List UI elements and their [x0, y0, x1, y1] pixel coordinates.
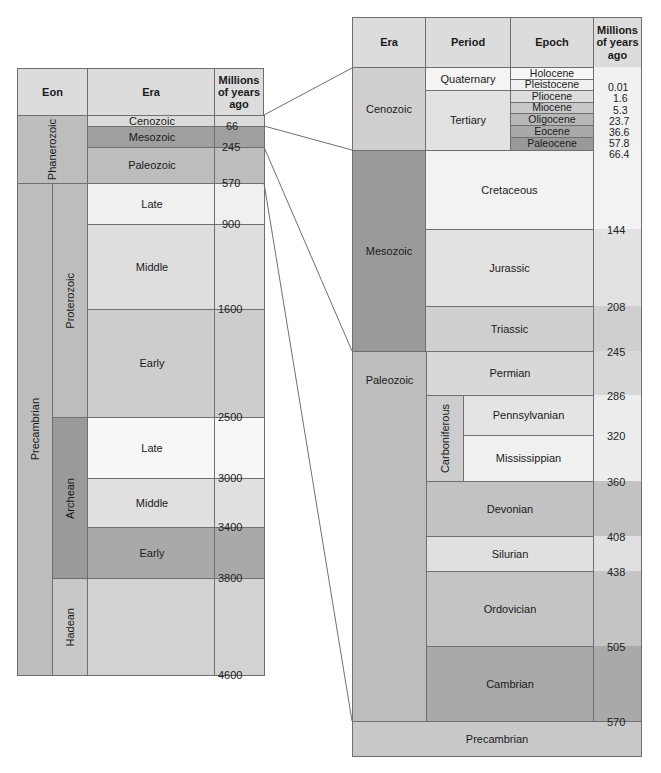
period-carboniferous: Carboniferous: [426, 395, 464, 482]
tick-245: 245: [220, 141, 242, 153]
era-mesozoic: Mesozoic: [352, 150, 426, 352]
period-tertiary: Tertiary: [425, 90, 511, 151]
period-silurian: Silurian: [426, 536, 594, 572]
ma-bg-ordovician: [593, 571, 642, 647]
header-period: Period: [425, 17, 511, 68]
period-devonian: Devonian: [426, 481, 594, 537]
era-precambrian: Precambrian: [352, 721, 642, 757]
column-divider: [214, 115, 215, 676]
period-quaternary: Quaternary: [425, 67, 511, 91]
subeon-proterozoic: Proterozoic: [52, 183, 88, 418]
epoch-paleocene: Paleocene: [510, 137, 594, 151]
ma-bg-cretaceous: [593, 150, 642, 230]
tick-900: 900: [220, 218, 242, 230]
period-permian: Permian: [426, 351, 594, 396]
tick-286: 286: [607, 390, 625, 402]
subeon-archean: Archean: [52, 417, 88, 579]
tick-4600: 4600: [216, 669, 244, 681]
eon-precambrian: Precambrian: [17, 183, 53, 676]
period-jurassic: Jurassic: [425, 229, 594, 307]
tick-245: 245: [607, 346, 625, 358]
header-epoch: Epoch: [510, 17, 594, 68]
subeon-hadean: Hadean: [52, 578, 88, 676]
era-row-hadean: [87, 578, 265, 676]
tick-408: 408: [607, 531, 625, 543]
eon-phanerozoic: Phanerozoic: [17, 115, 88, 184]
subperiod-mississippian: Mississippian: [463, 435, 594, 482]
tick-66.4: 66.4: [607, 148, 631, 160]
period-cambrian: Cambrian: [426, 646, 594, 722]
tick-3000: 3000: [216, 472, 244, 484]
header-era: Era: [352, 17, 426, 68]
header-era: Era: [87, 68, 215, 116]
tick-1.6: 1.6: [611, 92, 630, 104]
tick-144: 144: [607, 224, 625, 236]
tick-320: 320: [607, 430, 625, 442]
era-row-archean-late: Late: [87, 417, 265, 479]
tick-570: 570: [607, 716, 625, 728]
tick-438: 438: [607, 566, 625, 578]
tick-66: 66: [224, 120, 240, 132]
era-paleozoic: Paleozoic: [352, 351, 427, 722]
tick-3400: 3400: [216, 521, 244, 533]
header-millions-years-ago: Millions of years ago: [593, 17, 642, 68]
era-cenozoic: Cenozoic: [352, 67, 426, 151]
ma-bg-jurassic: [593, 229, 642, 307]
tick-1600: 1600: [216, 303, 244, 315]
period-cretaceous: Cretaceous: [425, 150, 594, 230]
tick-3800: 3800: [216, 572, 244, 584]
header-eon: Eon: [17, 68, 88, 116]
ma-bg-cambrian: [593, 646, 642, 722]
ma-bg-devonian: [593, 481, 642, 537]
tick-208: 208: [607, 301, 625, 313]
header-millions-years-ago: Millions of years ago: [214, 68, 264, 116]
period-ordovician: Ordovician: [426, 571, 594, 647]
tick-2500: 2500: [216, 411, 244, 423]
era-row-proterozoic-middle: Middle: [87, 224, 265, 310]
period-triassic: Triassic: [425, 306, 594, 352]
tick-570: 570: [220, 177, 242, 189]
era-row-proterozoic-early: Early: [87, 309, 265, 418]
tick-505: 505: [607, 641, 625, 653]
subperiod-pennsylvanian: Pennsylvanian: [463, 395, 594, 436]
tick-360: 360: [607, 476, 625, 488]
